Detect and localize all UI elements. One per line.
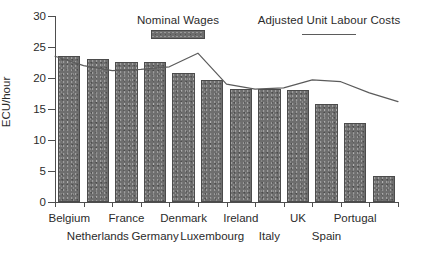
bar	[115, 62, 137, 202]
x-tick	[112, 202, 113, 207]
bar	[258, 89, 280, 202]
bar	[230, 89, 252, 202]
x-axis-label-spain: Spain	[282, 230, 372, 243]
x-tick	[255, 202, 256, 207]
x-tick	[312, 202, 313, 207]
bar	[344, 123, 366, 202]
bar	[58, 56, 80, 202]
chart-figure: Nominal Wages Adjusted Unit Labour Costs…	[0, 0, 427, 261]
bar	[373, 176, 395, 202]
x-tick	[84, 202, 85, 207]
x-tick	[55, 202, 56, 207]
y-tick-label-5: 5	[22, 165, 46, 177]
bar	[315, 104, 337, 202]
bar	[287, 90, 309, 202]
y-tick-label-20: 20	[22, 72, 46, 84]
x-axis-label-portugal: Portugal	[310, 212, 400, 225]
x-tick	[341, 202, 342, 207]
x-tick	[141, 202, 142, 207]
y-tick-label-15: 15	[22, 103, 46, 115]
y-tick-label-0: 0	[22, 196, 46, 208]
y-tick-label-30: 30	[22, 10, 46, 22]
y-tick-label-25: 25	[22, 41, 46, 53]
x-tick	[398, 202, 399, 207]
y-axis-title: ECU/hour	[0, 77, 12, 128]
bars-layer	[55, 16, 398, 202]
y-tick-label-10: 10	[22, 134, 46, 146]
bar	[201, 80, 223, 202]
x-tick	[198, 202, 199, 207]
bar	[144, 62, 166, 202]
bar	[87, 59, 109, 202]
x-tick	[169, 202, 170, 207]
x-tick	[284, 202, 285, 207]
x-tick	[227, 202, 228, 207]
bar	[172, 73, 194, 202]
x-tick	[369, 202, 370, 207]
